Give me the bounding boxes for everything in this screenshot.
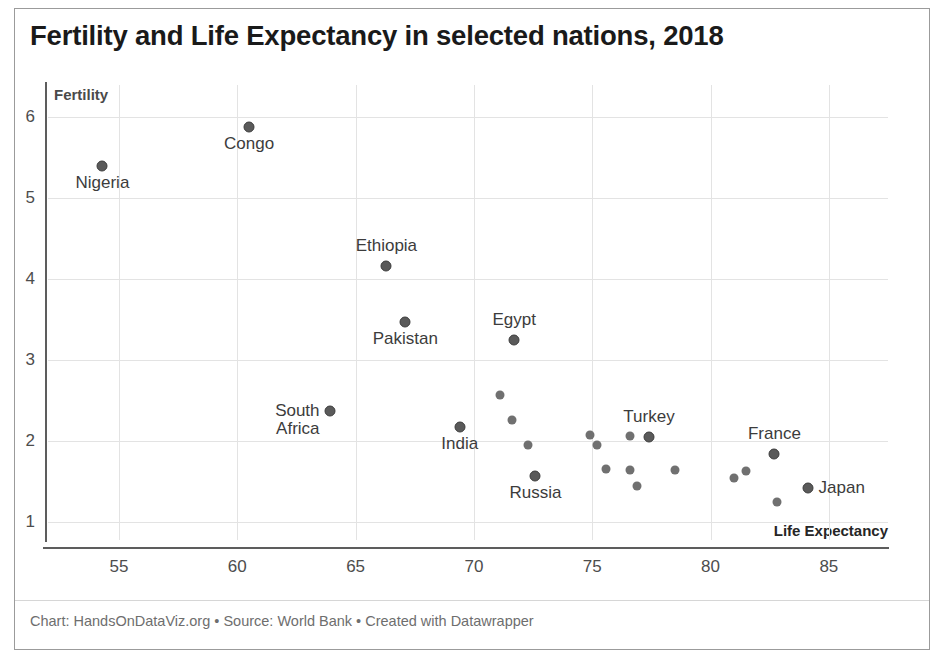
data-point[interactable] <box>592 441 601 450</box>
y-axis-line <box>45 82 47 542</box>
x-tick-label: 80 <box>701 557 720 577</box>
x-tick-label: 55 <box>110 557 129 577</box>
chart-title: Fertility and Life Expectancy in selecte… <box>30 20 724 52</box>
gridline-horizontal <box>48 360 888 361</box>
data-point-japan[interactable] <box>802 483 813 494</box>
data-point-label: Ethiopia <box>356 237 417 255</box>
y-tick-label: 3 <box>26 350 35 370</box>
chart-source-note: Chart: HandsOnDataViz.org • Source: Worl… <box>30 613 534 629</box>
data-point[interactable] <box>602 464 611 473</box>
data-point-ethiopia[interactable] <box>381 260 392 271</box>
gridline-vertical <box>474 85 475 540</box>
data-point[interactable] <box>772 497 781 506</box>
data-point-pakistan[interactable] <box>400 317 411 328</box>
data-point-label: Russia <box>509 484 561 502</box>
gridline-vertical <box>237 85 238 540</box>
gridline-vertical <box>829 85 830 540</box>
data-point-label: Nigeria <box>75 174 129 192</box>
y-tick-label: 1 <box>26 512 35 532</box>
data-point-label: South Africa <box>275 402 319 438</box>
plot-area: Fertility Life Expectancy 12345655606570… <box>48 85 888 555</box>
gridline-horizontal <box>48 117 888 118</box>
x-axis-title: Life Expectancy <box>774 522 888 539</box>
data-point[interactable] <box>730 473 739 482</box>
gridline-vertical <box>356 85 357 540</box>
y-tick-label: 5 <box>26 188 35 208</box>
gridline-horizontal <box>48 198 888 199</box>
data-point[interactable] <box>585 430 594 439</box>
y-tick-label: 4 <box>26 269 35 289</box>
gridline-horizontal <box>48 522 888 523</box>
data-point-india[interactable] <box>454 421 465 432</box>
footer-divider <box>15 600 929 601</box>
data-point[interactable] <box>671 466 680 475</box>
data-point-label: France <box>748 425 801 443</box>
data-point[interactable] <box>633 481 642 490</box>
x-tick-label: 70 <box>464 557 483 577</box>
data-point-label: Japan <box>819 479 865 497</box>
data-point-label: India <box>441 435 478 453</box>
x-tick-label: 65 <box>346 557 365 577</box>
data-point[interactable] <box>742 467 751 476</box>
data-point-label: Egypt <box>492 311 535 329</box>
data-point[interactable] <box>626 465 635 474</box>
data-point-russia[interactable] <box>530 471 541 482</box>
gridline-vertical <box>711 85 712 540</box>
data-point-south-africa[interactable] <box>324 406 335 417</box>
x-tick-label: 60 <box>228 557 247 577</box>
y-tick-label: 6 <box>26 107 35 127</box>
y-tick-label: 2 <box>26 431 35 451</box>
chart-screenshot: Fertility and Life Expectancy in selecte… <box>0 0 944 658</box>
data-point[interactable] <box>507 416 516 425</box>
data-point[interactable] <box>626 432 635 441</box>
data-point-label: Pakistan <box>373 330 438 348</box>
data-point-egypt[interactable] <box>509 335 520 346</box>
gridline-vertical <box>592 85 593 540</box>
gridline-horizontal <box>48 279 888 280</box>
gridline-vertical <box>119 85 120 540</box>
data-point-label: Turkey <box>623 408 674 426</box>
data-point[interactable] <box>524 441 533 450</box>
x-tick-label: 75 <box>583 557 602 577</box>
y-axis-title: Fertility <box>54 86 108 103</box>
data-point-turkey[interactable] <box>644 432 655 443</box>
x-tick-label: 85 <box>819 557 838 577</box>
data-point-congo[interactable] <box>244 122 255 133</box>
data-point-france[interactable] <box>769 449 780 460</box>
data-point[interactable] <box>495 391 504 400</box>
data-point-label: Congo <box>224 135 274 153</box>
data-point-nigeria[interactable] <box>97 160 108 171</box>
x-axis-line <box>43 547 889 549</box>
